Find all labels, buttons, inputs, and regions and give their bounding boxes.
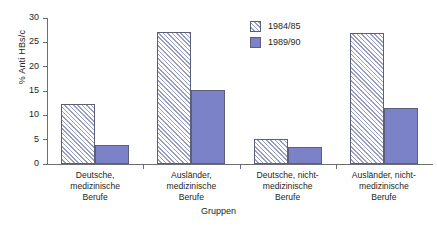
x-category-label: Ausländer,medizinischeBerufe [143, 170, 239, 203]
plot-area: 051015202530 [47, 18, 432, 164]
y-tick-label: 20 [19, 61, 39, 71]
y-tick-label: 15 [19, 85, 39, 95]
bar [350, 33, 384, 164]
y-tick-mark [43, 18, 47, 19]
x-category-label-line: Berufe [240, 192, 336, 203]
x-category-label-line: Berufe [336, 192, 432, 203]
y-tick-mark [43, 91, 47, 92]
x-separator-tick [240, 164, 241, 169]
bar [254, 139, 288, 164]
y-tick-mark [43, 164, 47, 165]
x-separator-tick [336, 164, 337, 169]
legend-label: 1989/90 [268, 37, 301, 47]
legend-item: 1984/85 [250, 19, 301, 33]
x-category-label-line: medizinische [47, 181, 143, 192]
x-category-label-line: medizinische [336, 181, 432, 192]
y-tick-mark [43, 115, 47, 116]
bar-chart: % Anti HBs/c 051015202530 Deutsche,mediz… [0, 0, 437, 226]
x-axis-title: Gruppen [0, 206, 437, 216]
x-category-label-line: Ausländer, [143, 170, 239, 181]
x-category-label-line: Ausländer, nicht- [336, 170, 432, 181]
y-tick-label: 5 [19, 134, 39, 144]
y-tick-label: 30 [19, 12, 39, 22]
bar [288, 147, 322, 164]
y-tick-mark [43, 66, 47, 67]
y-tick-label: 0 [19, 158, 39, 168]
y-tick-mark [43, 42, 47, 43]
x-category-label-line: medizinische [240, 181, 336, 192]
y-tick-label: 10 [19, 109, 39, 119]
legend-swatch [250, 21, 261, 32]
x-category-label: Ausländer, nicht-medizinischeBerufe [336, 170, 432, 203]
legend-item: 1989/90 [250, 35, 301, 49]
x-category-label: Deutsche,medizinischeBerufe [47, 170, 143, 203]
bar [61, 104, 95, 164]
x-separator-tick [143, 164, 144, 169]
x-category-label-line: Berufe [143, 192, 239, 203]
y-tick-mark [43, 139, 47, 140]
bar [191, 90, 225, 164]
legend-label: 1984/85 [268, 21, 301, 31]
x-category-label-line: medizinische [143, 181, 239, 192]
bar [157, 32, 191, 164]
x-category-label-line: Deutsche, [47, 170, 143, 181]
bar [95, 145, 129, 164]
y-tick-label: 25 [19, 36, 39, 46]
legend: 1984/851989/90 [250, 19, 301, 51]
x-category-label-line: Deutsche, nicht- [240, 170, 336, 181]
x-category-label: Deutsche, nicht-medizinischeBerufe [240, 170, 336, 203]
bar [384, 108, 418, 164]
x-category-label-line: Berufe [47, 192, 143, 203]
legend-swatch [250, 37, 261, 48]
